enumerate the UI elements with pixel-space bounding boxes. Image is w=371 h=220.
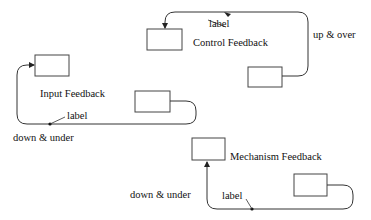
mechanism-source-box[interactable]: [294, 174, 327, 196]
control-route-label: up & over: [313, 29, 356, 40]
input-target-box[interactable]: [35, 55, 69, 76]
input-label-leader: [50, 117, 65, 124]
mechanism-target-box[interactable]: [192, 138, 225, 160]
control-feedback-group: label Control Feedback up & over: [147, 12, 356, 87]
mechanism-feedback-group: label Mechanism Feedback down & under: [130, 138, 353, 211]
control-target-box[interactable]: [147, 29, 182, 50]
control-title: Control Feedback: [193, 37, 269, 48]
mechanism-label-leader: [246, 199, 252, 209]
input-source-box[interactable]: [135, 91, 170, 112]
mechanism-feedback-arrow: [207, 162, 353, 209]
mechanism-title: Mechanism Feedback: [230, 151, 323, 162]
control-source-box[interactable]: [248, 67, 282, 87]
control-label-pointer-icon: [224, 12, 231, 17]
mechanism-route-label: down & under: [130, 189, 191, 200]
input-route-label: down & under: [13, 132, 74, 143]
mechanism-edge-label: label: [222, 190, 242, 201]
input-title: Input Feedback: [40, 88, 106, 99]
control-edge-label: label: [209, 18, 229, 29]
input-edge-label: label: [67, 110, 87, 121]
feedback-diagram: label Control Feedback up & over label I…: [0, 0, 371, 220]
input-feedback-group: label Input Feedback down & under: [13, 55, 196, 143]
